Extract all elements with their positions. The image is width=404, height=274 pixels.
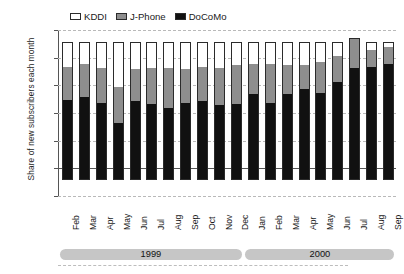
bar-column[interactable] xyxy=(180,42,191,180)
bar-segment-jphone xyxy=(180,69,191,102)
bar-column[interactable] xyxy=(231,42,242,180)
bar-column[interactable] xyxy=(79,42,90,180)
bar-segment-jphone xyxy=(282,65,293,94)
bar-column[interactable] xyxy=(197,42,208,180)
bar-column[interactable] xyxy=(366,42,377,180)
bar-series-group xyxy=(58,14,396,196)
bar-column[interactable] xyxy=(96,42,107,180)
bar-segment-jphone xyxy=(332,56,343,82)
bar-column[interactable] xyxy=(299,42,310,180)
bar-segment-docomo xyxy=(146,104,157,180)
x-tick-label: Mar xyxy=(88,190,99,230)
x-tick-label: Feb xyxy=(274,190,285,230)
bar-segment-kddi xyxy=(197,42,208,67)
x-tick-label: Sep xyxy=(393,190,404,230)
bar-segment-docomo xyxy=(265,103,276,180)
bar-segment-docomo xyxy=(197,101,208,180)
bar-segment-docomo xyxy=(214,105,225,180)
x-tick-label: Aug xyxy=(376,190,387,230)
bar-segment-jphone xyxy=(96,68,107,103)
bar-segment-kddi xyxy=(332,42,343,56)
bar-segment-jphone xyxy=(315,62,326,92)
bar-segment-kddi xyxy=(146,42,157,68)
bar-segment-kddi xyxy=(62,42,73,67)
bar-segment-jphone xyxy=(265,64,276,103)
bar-segment-jphone xyxy=(248,64,259,94)
x-tick-label: Jan xyxy=(257,190,268,230)
bar-column[interactable] xyxy=(332,42,343,180)
x-tick-label: Nov xyxy=(224,190,235,230)
bar-segment-kddi xyxy=(79,42,90,64)
bar-segment-jphone xyxy=(197,67,208,102)
bar-segment-docomo xyxy=(349,68,360,180)
bar-segment-docomo xyxy=(180,103,191,180)
bar-column[interactable] xyxy=(248,42,259,180)
bar-segment-docomo xyxy=(62,100,73,180)
bar-segment-docomo xyxy=(130,101,141,180)
bar-column[interactable] xyxy=(214,42,225,180)
bar-segment-kddi xyxy=(315,42,326,63)
x-tick-label: Jun xyxy=(139,190,150,230)
bar-column[interactable] xyxy=(282,42,293,180)
bar-segment-jphone xyxy=(366,50,377,67)
bottom-dashed-rule xyxy=(58,265,348,266)
year-bands: 19992000 xyxy=(58,249,396,262)
bar-segment-kddi xyxy=(282,42,293,66)
x-tick-label: May xyxy=(325,190,336,230)
bar-segment-docomo xyxy=(96,103,107,180)
bar-segment-jphone xyxy=(146,68,157,104)
bar-segment-kddi xyxy=(96,42,107,68)
bar-segment-docomo xyxy=(332,82,343,180)
bar-segment-docomo xyxy=(79,97,90,180)
bar-segment-kddi xyxy=(231,42,242,66)
bar-segment-jphone xyxy=(349,38,360,68)
bar-segment-kddi xyxy=(299,42,310,66)
bar-segment-jphone xyxy=(214,68,225,105)
bar-column[interactable] xyxy=(163,42,174,180)
bar-segment-docomo xyxy=(299,89,310,180)
bar-column[interactable] xyxy=(349,38,360,180)
bar-segment-kddi xyxy=(113,42,124,88)
bar-segment-kddi xyxy=(180,42,191,70)
bar-column[interactable] xyxy=(130,42,141,180)
x-tick-label: Sep xyxy=(190,190,201,230)
x-tick-label: Jul xyxy=(156,190,167,230)
bar-segment-jphone xyxy=(113,87,124,123)
x-tick-label: Dec xyxy=(240,190,251,230)
bar-segment-docomo xyxy=(383,64,394,180)
tick-mark--20 xyxy=(54,196,58,197)
bar-segment-jphone xyxy=(163,68,174,108)
year-band-2000: 2000 xyxy=(245,249,394,260)
bar-column[interactable] xyxy=(383,42,394,180)
bar-segment-docomo xyxy=(282,94,293,180)
bar-segment-kddi xyxy=(130,42,141,70)
plot-area: 100%80%60%40%20%0-20% FebMarAprMayJunJul… xyxy=(58,30,396,196)
x-tick-label: May xyxy=(122,190,133,230)
bar-segment-jphone xyxy=(79,64,90,97)
year-band-1999: 1999 xyxy=(60,249,243,260)
bar-segment-jphone xyxy=(299,65,310,89)
bar-segment-docomo xyxy=(248,94,259,180)
x-tick-label: Oct xyxy=(207,190,218,230)
x-tick-label: Aug xyxy=(173,190,184,230)
bar-segment-docomo xyxy=(366,67,377,180)
bar-segment-jphone xyxy=(130,69,141,101)
x-tick-label: Mar xyxy=(291,190,302,230)
bar-segment-jphone xyxy=(231,65,242,104)
x-tick-label: Apr xyxy=(308,190,319,230)
bar-column[interactable] xyxy=(62,42,73,180)
bar-segment-kddi xyxy=(366,42,377,50)
bar-column[interactable] xyxy=(265,42,276,180)
bar-segment-kddi xyxy=(163,42,174,68)
x-tick-label: Feb xyxy=(71,190,82,230)
y-axis-title: Share of new subscribers each month xyxy=(26,14,36,204)
bar-segment-jphone xyxy=(62,67,73,100)
bar-segment-kddi xyxy=(265,42,276,64)
bar-segment-docomo xyxy=(113,123,124,180)
bar-column[interactable] xyxy=(146,42,157,180)
x-tick-label: Apr xyxy=(105,190,116,230)
bar-segment-jphone xyxy=(383,47,394,64)
bar-column[interactable] xyxy=(315,42,326,180)
bar-column[interactable] xyxy=(113,42,124,180)
